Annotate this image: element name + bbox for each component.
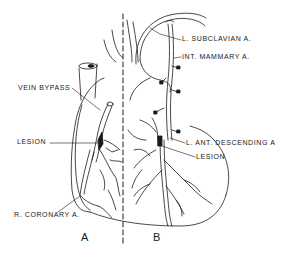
panel-label-a: A [81, 231, 88, 243]
heart-outline [71, 13, 228, 226]
label-internal-mammary: INT. MAMMARY A. [182, 53, 250, 61]
label-left-subclavian: L. SUBCLAVIAN A. [182, 35, 251, 43]
label-vein-bypass: VEIN BYPASS [18, 84, 70, 92]
left-anterior-descending-artery [128, 118, 212, 226]
right-coronary-artery [80, 140, 122, 218]
label-lesion-a: LESION [17, 138, 46, 146]
vein-bypass-graft [92, 102, 113, 162]
lesion-b-marker [158, 136, 162, 146]
label-lesion-b: LESION [196, 153, 225, 161]
bypass-diagram: VEIN BYPASS LESION R. CORONARY A. L. SUB… [0, 0, 288, 253]
label-right-coronary: R. CORONARY A. [14, 211, 80, 219]
label-left-anterior-descending: L. ANT. DESCENDING A [186, 139, 275, 147]
lesion-a-marker [98, 132, 103, 150]
panel-label-b: B [153, 231, 160, 243]
